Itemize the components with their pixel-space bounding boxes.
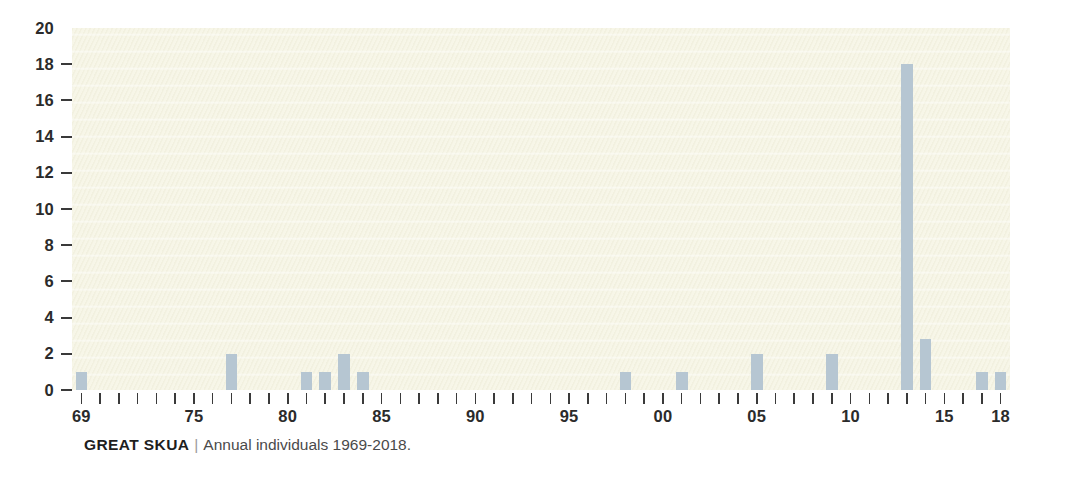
- y-axis-tick-dash: [61, 280, 72, 282]
- x-axis-tick-mark: [381, 393, 383, 404]
- x-axis-tick-mark: [99, 393, 101, 404]
- x-axis-tick-label: 15: [935, 407, 954, 426]
- y-axis-tick-label: 16: [35, 91, 54, 110]
- y-axis-tick-label: 6: [45, 272, 54, 291]
- x-axis-tick-mark: [531, 393, 533, 404]
- y-axis-tick-dash: [61, 172, 72, 174]
- x-axis-tick-label: 80: [278, 407, 297, 426]
- y-axis-tick-dash: [61, 63, 72, 65]
- x-axis-tick-mark: [268, 393, 270, 404]
- x-axis-tick-label: 00: [654, 407, 673, 426]
- bar: [338, 354, 350, 390]
- x-axis-tick-mark: [625, 393, 627, 404]
- x-axis-tick-mark: [437, 393, 439, 404]
- y-axis-tick-label: 14: [35, 127, 54, 146]
- y-axis-tick-label: 20: [35, 19, 54, 38]
- x-axis-tick-label: 05: [747, 407, 766, 426]
- x-axis-tick-mark: [1000, 393, 1002, 404]
- bar: [76, 372, 88, 390]
- y-axis-tick-label: 2: [45, 344, 54, 363]
- y-axis-tick: 4: [45, 309, 72, 327]
- chart-caption: GREAT SKUA|Annual individuals 1969-2018.: [84, 436, 411, 454]
- y-axis-tick: 8: [45, 236, 72, 254]
- bar: [226, 354, 238, 390]
- x-axis-tick-mark: [249, 393, 251, 404]
- x-axis-tick-mark: [343, 393, 345, 404]
- x-axis-tick-mark: [831, 393, 833, 404]
- great-skua-bar-chart-figure: 02468101214161820 6975808590950005101518…: [0, 0, 1078, 477]
- x-axis-tick-mark: [587, 393, 589, 404]
- x-axis-tick-mark: [174, 393, 176, 404]
- y-axis-tick: 18: [35, 55, 72, 73]
- x-axis-tick-mark: [324, 393, 326, 404]
- bar: [676, 372, 688, 390]
- bar: [995, 372, 1007, 390]
- x-axis-tick-mark: [193, 393, 195, 404]
- y-axis-tick-dash: [61, 244, 72, 246]
- x-axis-tick-mark: [643, 393, 645, 404]
- x-axis-tick-mark: [812, 393, 814, 404]
- bar: [620, 372, 632, 390]
- x-axis-tick-mark: [568, 393, 570, 404]
- caption-separator: |: [189, 436, 203, 453]
- y-axis-tick: 2: [45, 345, 72, 363]
- y-axis-tick-dash: [61, 353, 72, 355]
- y-axis-tick-dash: [61, 208, 72, 210]
- y-axis-tick-label: 8: [45, 236, 54, 255]
- x-axis-tick-mark: [887, 393, 889, 404]
- x-axis-tick-mark: [662, 393, 664, 404]
- x-axis-tick-mark: [962, 393, 964, 404]
- x-axis-tick-mark: [400, 393, 402, 404]
- y-axis-tick: 16: [35, 91, 72, 109]
- x-axis-tick-label: 95: [560, 407, 579, 426]
- bar: [901, 64, 913, 390]
- x-axis-tick-mark: [81, 393, 83, 404]
- x-axis-tick-mark: [606, 393, 608, 404]
- x-axis-tick-mark: [906, 393, 908, 404]
- bar: [826, 354, 838, 390]
- x-axis-tick-mark: [718, 393, 720, 404]
- x-axis-tick-mark: [550, 393, 552, 404]
- x-axis-tick-label: 18: [991, 407, 1010, 426]
- x-axis-tick-mark: [362, 393, 364, 404]
- x-axis-tick-mark: [756, 393, 758, 404]
- y-axis-tick-label: 4: [45, 308, 54, 327]
- y-axis-tick-dash: [61, 317, 72, 319]
- x-axis-tick-mark: [456, 393, 458, 404]
- y-axis-tick: 14: [35, 128, 72, 146]
- caption-species-name: GREAT SKUA: [84, 436, 189, 453]
- x-axis: 6975808590950005101518: [72, 390, 1010, 430]
- x-axis-tick-mark: [493, 393, 495, 404]
- y-axis-tick-dash: [61, 389, 72, 391]
- x-axis-tick-label: 85: [372, 407, 391, 426]
- x-axis-tick-label: 90: [466, 407, 485, 426]
- x-axis-tick-mark: [700, 393, 702, 404]
- bar: [357, 372, 369, 390]
- x-axis-tick-mark: [475, 393, 477, 404]
- x-axis-tick-mark: [156, 393, 158, 404]
- x-axis-tick-mark: [850, 393, 852, 404]
- y-axis-tick: 6: [45, 272, 72, 290]
- y-axis: 02468101214161820: [0, 0, 72, 418]
- y-axis-tick-label: 12: [35, 163, 54, 182]
- bar: [920, 339, 932, 390]
- bar: [751, 354, 763, 390]
- x-axis-tick-mark: [306, 393, 308, 404]
- y-axis-tick-dash: [61, 27, 72, 29]
- y-axis-tick: 10: [35, 200, 72, 218]
- caption-description: Annual individuals 1969-2018.: [203, 436, 411, 453]
- bar: [301, 372, 313, 390]
- bar: [319, 372, 331, 390]
- x-axis-tick-mark: [793, 393, 795, 404]
- x-axis-tick-mark: [737, 393, 739, 404]
- x-axis-tick-mark: [212, 393, 214, 404]
- x-axis-tick-mark: [231, 393, 233, 404]
- x-axis-tick-mark: [869, 393, 871, 404]
- bar: [976, 372, 988, 390]
- x-axis-tick-label: 69: [72, 407, 91, 426]
- x-axis-tick-label: 75: [185, 407, 204, 426]
- y-axis-tick: 12: [35, 164, 72, 182]
- y-axis-tick: 0: [45, 381, 72, 399]
- x-axis-tick-mark: [981, 393, 983, 404]
- x-axis-tick-mark: [944, 393, 946, 404]
